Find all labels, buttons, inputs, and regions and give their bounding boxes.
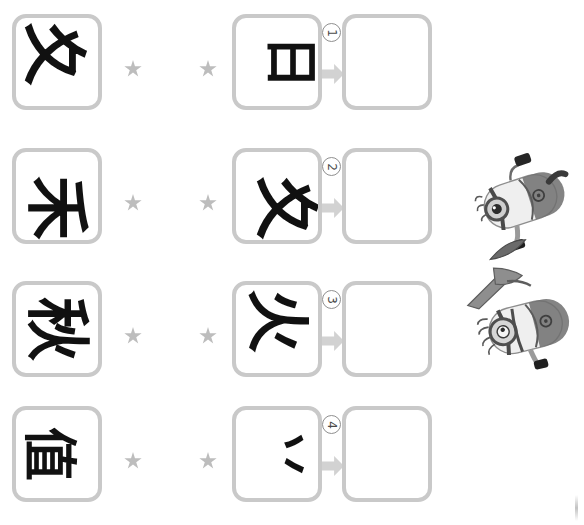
arrow-right-icon <box>322 198 344 218</box>
star-icon <box>124 194 142 212</box>
prompt-glyph: 秋 <box>16 285 98 373</box>
worksheet-canvas: 夊 日 1 禾 夊 2 秋 <box>0 0 584 525</box>
source-character-box[interactable]: 夊 <box>232 148 322 244</box>
answer-glyph <box>346 285 428 373</box>
star-icon <box>199 60 217 78</box>
prompt-glyph: 夊 <box>16 18 102 110</box>
star-icon <box>199 194 217 212</box>
arrow-right-icon <box>322 64 344 84</box>
prompt-character-box[interactable]: 秋 <box>12 281 102 377</box>
prompt-character-box[interactable]: 禾 <box>12 148 102 244</box>
source-character-box[interactable]: 日 <box>232 14 322 110</box>
star-icon <box>124 327 142 345</box>
answer-glyph <box>346 152 428 240</box>
answer-box[interactable] <box>342 281 432 377</box>
answer-box[interactable] <box>342 148 432 244</box>
step-number-badge: 4 <box>322 415 341 434</box>
step-number-badge: 2 <box>322 157 341 176</box>
star-icon <box>199 452 217 470</box>
answer-glyph <box>346 410 428 498</box>
minion-figure-bottom-image <box>466 256 584 376</box>
answer-box[interactable] <box>342 14 432 110</box>
star-icon <box>199 327 217 345</box>
source-glyph: 日 <box>236 18 322 106</box>
table-row: 夊 日 1 <box>0 14 584 124</box>
answer-glyph <box>346 18 428 106</box>
arrow-right-icon <box>322 331 344 351</box>
prompt-character-box[interactable]: 夊 <box>12 14 102 110</box>
source-character-box[interactable]: 火 <box>232 281 322 377</box>
source-character-box[interactable]: 丷 <box>232 406 322 502</box>
star-icon <box>124 60 142 78</box>
step-number-badge: 1 <box>322 23 341 42</box>
prompt-character-box[interactable]: 值 <box>12 406 102 502</box>
step-number-badge: 3 <box>322 290 341 309</box>
table-row: 值 丷 4 <box>0 406 584 516</box>
scan-edge-artifact <box>575 495 578 521</box>
star-icon <box>124 452 142 470</box>
source-glyph: 火 <box>236 285 318 377</box>
source-glyph: 丷 <box>236 410 322 498</box>
arrow-right-icon <box>322 456 344 476</box>
source-glyph: 夊 <box>236 152 322 244</box>
answer-box[interactable] <box>342 406 432 502</box>
prompt-glyph: 值 <box>16 410 102 498</box>
minion-figure-top-image <box>466 142 584 262</box>
prompt-glyph: 禾 <box>16 152 98 244</box>
